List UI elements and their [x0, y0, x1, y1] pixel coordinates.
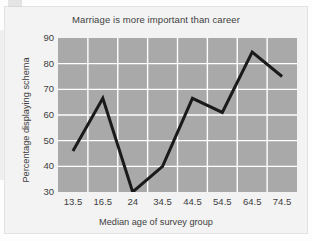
- y-axis-tick-label: 30: [24, 187, 54, 197]
- y-axis-tick-label: 40: [24, 161, 54, 171]
- y-axis-tick-labels: 30405060708090: [22, 0, 54, 241]
- chart-figure: Marriage is more important than career P…: [0, 0, 312, 241]
- plot-area: [58, 38, 297, 192]
- y-axis-tick-label: 80: [24, 59, 54, 69]
- data-line: [73, 52, 282, 192]
- y-axis-tick-label: 90: [24, 33, 54, 43]
- data-line-series: [58, 38, 297, 192]
- scan-artifact-top: [8, 0, 22, 7]
- y-axis-tick-label: 70: [24, 84, 54, 94]
- scan-artifact-left: [0, 30, 5, 180]
- x-axis-tick-label: 74.5: [261, 196, 303, 207]
- x-axis-tick-labels: 13.516.52434.544.554.564.574.5: [58, 196, 297, 210]
- y-axis-tick-label: 50: [24, 136, 54, 146]
- y-axis-tick-label: 60: [24, 110, 54, 120]
